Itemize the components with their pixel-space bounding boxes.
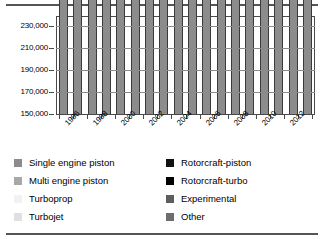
legend-label: Turbojet [29,212,64,222]
legend-item[interactable]: Turbojet [14,208,115,226]
y-axis-tick [49,26,54,27]
bar-2005[interactable] [188,0,197,114]
bar-segment [274,0,283,114]
gridline [56,26,315,27]
bar-segment [231,0,240,114]
legend-swatch-icon [14,213,22,221]
bar-2001[interactable] [131,0,140,114]
bar-segment [73,0,82,114]
legend-label: Other [181,212,205,222]
legend-label: Rotorcraft-turbo [181,176,248,186]
chart-figure: 150,000170,000190,000210,000230,000 1996… [0,0,324,243]
legend-label: Turboprop [29,194,72,204]
plot-area [56,16,315,115]
y-axis: 150,000170,000190,000210,000230,000 [0,16,54,115]
bar-1997[interactable] [73,0,82,114]
bar-2000[interactable] [116,0,125,114]
legend-label: Experimental [181,194,236,204]
legend-item[interactable]: Rotorcraft-piston [166,154,251,172]
y-axis-tick-label: 190,000 [20,66,48,74]
legend-swatch-icon [166,159,174,167]
chart-legend: Single engine pistonMulti engine pistonT… [14,154,314,228]
bar-segment [174,0,183,114]
bar-segment [289,0,298,114]
bar-2006[interactable] [202,0,211,114]
legend-swatch-icon [14,195,22,203]
bar-segment [188,0,197,114]
gridline [56,92,315,93]
legend-label: Rotorcraft-piston [181,158,251,168]
bar-segment [159,0,168,114]
bar-segment [88,0,97,114]
bar-segment [202,0,211,114]
bar-segment [303,0,312,114]
gridline [56,70,315,71]
legend-column-left: Single engine pistonMulti engine pistonT… [14,154,115,226]
legend-swatch-icon [166,195,174,203]
bar-segment [116,0,125,114]
bar-segment [131,0,140,114]
legend-item[interactable]: Single engine piston [14,154,115,172]
y-axis-tick [49,92,54,93]
bar-segment [145,0,154,114]
legend-swatch-icon [14,159,22,167]
bar-segment [260,0,269,114]
legend-swatch-icon [166,177,174,185]
y-axis-tick-label: 210,000 [20,44,48,52]
bar-1998[interactable] [88,0,97,114]
bar-2012[interactable] [289,0,298,114]
y-axis-tick [49,114,54,115]
bottom-divider [6,233,318,235]
x-axis-labels: 199619982000200220042006200820102012 [56,119,315,153]
legend-item[interactable]: Multi engine piston [14,172,115,190]
y-axis-tick [49,48,54,49]
legend-item[interactable]: Turboprop [14,190,115,208]
bar-1996[interactable] [59,0,68,114]
bar-2003[interactable] [159,0,168,114]
y-axis-tick [49,70,54,71]
bar-segment [217,0,226,114]
bar-2013[interactable] [303,0,312,114]
legend-item[interactable]: Rotorcraft-turbo [166,172,251,190]
bar-2008[interactable] [231,0,240,114]
legend-swatch-icon [14,177,22,185]
bar-1999[interactable] [102,0,111,114]
y-axis-tick-label: 150,000 [20,110,48,118]
bar-group [57,17,314,114]
bar-segment [245,0,254,114]
legend-item[interactable]: Other [166,208,251,226]
legend-item[interactable]: Experimental [166,190,251,208]
bar-2007[interactable] [217,0,226,114]
bar-2002[interactable] [145,0,154,114]
bar-2010[interactable] [260,0,269,114]
bar-2009[interactable] [245,0,254,114]
legend-swatch-icon [166,213,174,221]
y-axis-tick-label: 170,000 [20,88,48,96]
legend-label: Single engine piston [29,158,115,168]
y-axis-tick-label: 230,000 [20,22,48,30]
gridline [56,48,315,49]
bar-segment [102,0,111,114]
bar-segment [59,0,68,114]
bar-2011[interactable] [274,0,283,114]
legend-label: Multi engine piston [29,176,108,186]
bar-2004[interactable] [174,0,183,114]
legend-column-right: Rotorcraft-pistonRotorcraft-turboExperim… [166,154,251,226]
